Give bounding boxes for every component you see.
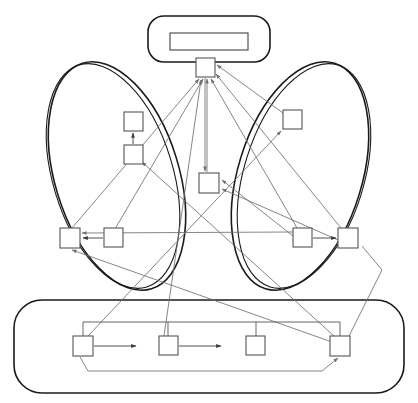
bottom-bus bbox=[83, 322, 340, 336]
node-n-left-low-a[interactable] bbox=[60, 228, 80, 248]
node-n-top[interactable] bbox=[196, 58, 215, 77]
edge-e20 bbox=[80, 357, 338, 371]
node-n-left-up-b[interactable] bbox=[124, 145, 143, 164]
group-top-inner-bar bbox=[170, 33, 248, 50]
edge-layer bbox=[72, 65, 382, 371]
diagram-svg bbox=[0, 0, 418, 403]
edge-e19 bbox=[72, 250, 332, 342]
node-n-right-low-b[interactable] bbox=[338, 228, 358, 248]
edge-e21 bbox=[348, 246, 382, 338]
edge-e14 bbox=[222, 180, 293, 236]
edge-e12 bbox=[164, 80, 201, 336]
node-n-right-low-a[interactable] bbox=[293, 228, 312, 247]
node-n-left-up-a[interactable] bbox=[124, 112, 143, 131]
edge-e10 bbox=[216, 74, 341, 228]
node-n-bot-2[interactable] bbox=[159, 336, 178, 355]
node-n-bot-4[interactable] bbox=[330, 336, 350, 356]
group-right-group[interactable] bbox=[206, 45, 395, 307]
node-n-bot-3[interactable] bbox=[246, 336, 265, 355]
diagram-canvas bbox=[0, 0, 418, 403]
node-n-bot-1[interactable] bbox=[73, 336, 93, 356]
node-n-center[interactable] bbox=[199, 173, 219, 193]
node-n-left-low-b[interactable] bbox=[104, 228, 123, 247]
node-n-right-up[interactable] bbox=[283, 110, 302, 129]
edge-e17 bbox=[142, 162, 334, 336]
